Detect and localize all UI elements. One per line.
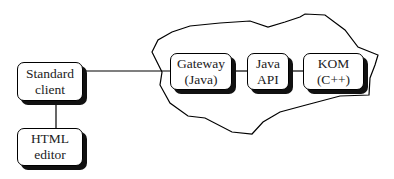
node-label-line2: API bbox=[257, 72, 279, 88]
node-label-line2: editor bbox=[34, 147, 66, 163]
node-label-line1: Gateway bbox=[177, 56, 225, 72]
node-label-line1: KOM bbox=[318, 56, 350, 72]
node-label-line2: client bbox=[35, 82, 65, 98]
node-label-line2: (C++) bbox=[317, 72, 350, 88]
node-gateway: Gateway (Java) bbox=[170, 53, 232, 90]
node-java-api: Java API bbox=[247, 53, 289, 90]
node-standard-client: Standard client bbox=[17, 62, 83, 101]
node-label-line1: Java bbox=[256, 56, 280, 72]
node-label-line1: Standard bbox=[26, 66, 74, 82]
node-kom: KOM (C++) bbox=[303, 53, 364, 90]
node-html-editor: HTML editor bbox=[17, 128, 83, 166]
node-label-line2: (Java) bbox=[185, 72, 218, 88]
node-label-line1: HTML bbox=[31, 131, 69, 147]
